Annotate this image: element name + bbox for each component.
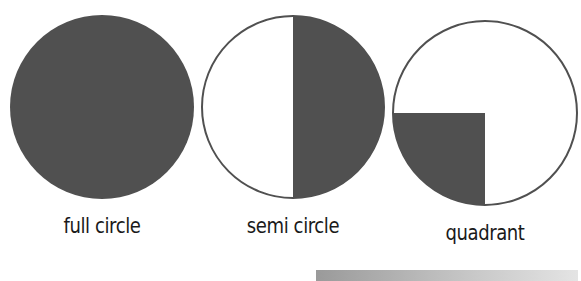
full-circle-label: full circle [20, 213, 184, 238]
decorative-gradient-bar [316, 270, 578, 281]
full-circle-shape [10, 15, 194, 199]
quadrant-label: quadrant [403, 220, 567, 245]
semi-circle-label: semi circle [211, 213, 375, 238]
quadrant-shape [393, 21, 577, 205]
semi-circle-shape [202, 16, 384, 198]
